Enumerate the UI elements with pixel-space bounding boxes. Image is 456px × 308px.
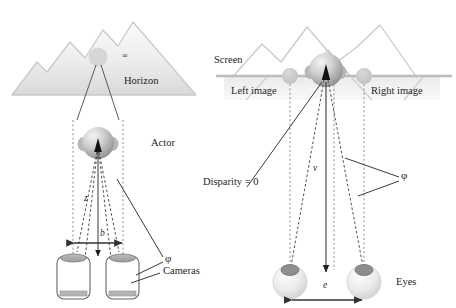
cameras-label: Cameras <box>163 266 200 277</box>
actor-label: Actor <box>151 138 175 149</box>
ghost-circle-left-image <box>282 68 298 84</box>
phi-label-left: φ <box>165 253 171 264</box>
eye-sight-rays <box>290 80 364 272</box>
viewing-distance-v-label: v <box>313 164 317 174</box>
eye-separation-e-label: e <box>323 281 327 291</box>
stereoscopy-figure <box>0 0 456 308</box>
horizon-label: Horizon <box>124 76 158 87</box>
phi-label-right: φ <box>401 170 407 181</box>
left-image-label: Left image <box>231 86 277 97</box>
right-image-label: Right image <box>371 86 423 97</box>
camera-icon-right <box>106 254 139 299</box>
ghost-circle-right-image <box>356 68 372 84</box>
eye-icon-right <box>347 265 381 300</box>
distance-z-label: z <box>84 194 88 204</box>
screen-label: Screen <box>214 55 243 66</box>
baseline-b-label: b <box>100 229 105 239</box>
dashed-guides-right <box>290 80 364 276</box>
sphere-icon-horizon <box>89 48 108 67</box>
infinity-label: ∞ <box>122 52 128 60</box>
eye-icon-left <box>273 265 307 300</box>
camera-icon-left <box>57 254 90 299</box>
display-panel <box>216 25 452 300</box>
phi-leader-lines-right <box>345 158 399 196</box>
disparity-label: Disparity = 0 <box>203 177 259 188</box>
eyes-label: Eyes <box>396 277 416 288</box>
